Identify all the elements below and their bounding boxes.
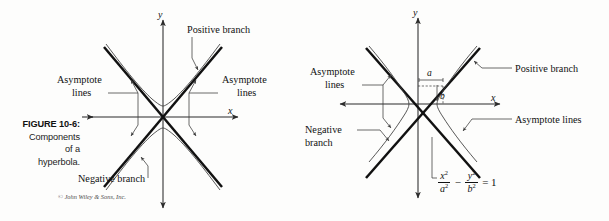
semi-axis-a-bracket [419,78,443,82]
left-negative-branch-label: Negative branch [78,173,145,184]
left-asymptote-label-left-line2: lines [72,87,91,98]
right-x-axis-label: x [490,92,496,103]
left-asymptote-label-right-line2: lines [237,87,256,98]
right-positive-branch-label: Positive branch [515,63,578,74]
equation-y-num-exp: 2 [472,169,475,176]
right-negative-branch-leader [357,130,389,141]
equation-x-num-exp: 2 [445,169,448,176]
semi-axis-a-label: a [427,67,432,78]
semi-axis-b-label: b [440,90,445,101]
right-y-axis-label: y [412,7,418,18]
right-negative-branch-label-line2: branch [305,137,333,148]
hyperbola-equation: x2 a2 − y2 b2 = 1 [437,170,498,195]
right-asymptote-leader-right [463,119,512,131]
right-asymptote-leader-lower-left [383,85,391,128]
right-negative-branch-label-line1: Negative [305,124,342,135]
equation-operator: − [453,176,462,188]
left-y-axis-label: y [157,9,163,20]
right-asymptote-label-left-line2: lines [325,79,344,90]
equation-a-den-exp: 2 [445,182,448,189]
left-asymptote-label-right-line1: Asymptote [222,74,267,85]
left-x-axis-label: x [227,105,233,116]
equation-term-y: y2 b2 [465,170,477,195]
right-asymptote-label-left-line1: Asymptote [310,66,355,77]
left-positive-branch-label: Positive branch [187,24,250,35]
left-asymptote-label-left-line1: Asymptote [57,74,102,85]
left-asymptote-leader-lower-right [189,93,196,136]
hyperbola-diagrams: x y Positive branch Negative branch Asym… [0,0,609,221]
left-diagram-group: x y Positive branch Negative branch Asym… [57,9,267,208]
right-asymptote-label-right: Asymptote lines [515,114,582,125]
left-asymptote-leader-lower-left [131,93,138,136]
equation-b-den-exp: 2 [472,182,475,189]
equation-equals: = 1 [481,176,498,188]
right-asymptote-leader-upper-left [362,75,391,85]
right-positive-branch-leader [474,61,512,68]
figure-container: FIGURE 10-6: Components of a hyperbola. … [0,0,609,221]
left-positive-branch-leader [192,37,198,70]
equation-term-x: x2 a2 [438,170,450,195]
